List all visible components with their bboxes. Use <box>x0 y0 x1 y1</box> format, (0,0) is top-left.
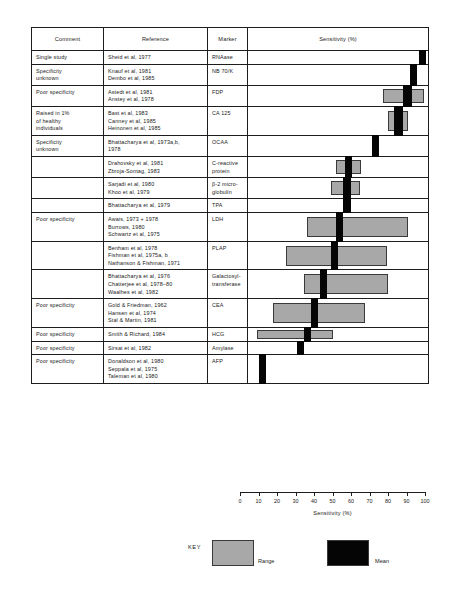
cell-sensitivity-plot <box>248 135 429 156</box>
cell-reference-line: Bast et al, 1983 <box>108 110 203 118</box>
cell-sensitivity-plot <box>248 156 429 177</box>
cell-reference: Bhattacharya et al, 1973a,b,1978 <box>104 135 208 156</box>
cell-reference-line: Sheid et al, 1977 <box>108 54 203 62</box>
cell-reference: Bast et al, 1983Canney et al, 1985Heinon… <box>104 106 208 135</box>
cell-comment: Poor specificity <box>32 328 104 342</box>
bar-container <box>248 157 428 177</box>
cell-marker-line: transferase <box>212 281 243 289</box>
range-bar <box>304 274 389 294</box>
cell-marker-line: FDP <box>212 89 243 97</box>
mean-bar <box>345 156 352 178</box>
table-row: Poor specificityGold & Friedman, 1962Han… <box>32 299 429 328</box>
cell-marker-line: CA 125 <box>212 110 243 118</box>
cell-comment: Poor specificity <box>32 355 104 384</box>
cell-sensitivity-plot <box>248 241 429 270</box>
cell-comment-line: Poor specificity <box>36 216 99 224</box>
key-label: KEY <box>188 544 201 550</box>
cell-marker-line: TPA <box>212 202 243 210</box>
table-row: Poor specificityAstedt et al, 1981Anstey… <box>32 85 429 106</box>
cell-marker-line: OCAA <box>212 139 243 147</box>
cell-marker: Galactosyl-transferase <box>208 270 248 299</box>
cell-reference-line: Bhattacharya et al, 1979 <box>108 202 203 210</box>
cell-comment-line: Single study <box>36 54 99 62</box>
cell-marker: TPA <box>208 199 248 213</box>
marker-sensitivity-table: Comment Reference Marker Sensitivity (%)… <box>31 27 429 384</box>
cell-comment-line: Poor specificity <box>36 331 99 339</box>
axis-tick-label: 20 <box>267 498 287 504</box>
table-row: Poor specificityAwais, 1973 + 1978Burrow… <box>32 212 429 241</box>
mean-bar <box>297 341 304 356</box>
cell-reference-line: Waalhes et al, 1982 <box>108 289 203 297</box>
axis-tick-label: 80 <box>378 498 398 504</box>
bar-container <box>248 342 428 355</box>
cell-sensitivity-plot <box>248 328 429 342</box>
cell-comment-line: Specificity <box>36 139 99 147</box>
cell-marker-line: LDH <box>212 216 243 224</box>
cell-marker-line: AFP <box>212 358 243 366</box>
cell-comment-line: Poor specificity <box>36 89 99 97</box>
mean-bar <box>343 177 350 199</box>
axis-tick <box>351 492 352 496</box>
cell-marker: β-2 micro-globulin <box>208 178 248 199</box>
bar-container <box>248 328 428 341</box>
cell-marker-line: PLAP <box>212 245 243 253</box>
axis-tick <box>259 492 260 496</box>
cell-marker-line: β-2 micro- <box>212 181 243 189</box>
cell-reference-line: Chatterjee et al, 1978–80 <box>108 281 203 289</box>
table-row: SpecificityunknownKnauf et al, 1981Dembo… <box>32 64 429 85</box>
bar-container <box>248 213 428 241</box>
mean-bar <box>419 50 426 65</box>
axis-tick-label: 90 <box>397 498 417 504</box>
table-row: Single studySheid et al, 1977RNAase <box>32 51 429 65</box>
cell-reference-line: Hansen et al, 1974 <box>108 310 203 318</box>
cell-marker: Amylase <box>208 341 248 355</box>
axis-tick-label: 70 <box>360 498 380 504</box>
column-header-reference: Reference <box>104 28 208 51</box>
cell-reference-line: Sirsat et al, 1982 <box>108 345 203 353</box>
cell-reference-line: Dembo et al, 1985 <box>108 75 203 83</box>
cell-reference: Sirsat et al, 1982 <box>104 341 208 355</box>
legend-swatch-mean <box>327 540 369 566</box>
cell-marker: LDH <box>208 212 248 241</box>
cell-comment <box>32 241 104 270</box>
cell-reference: Drahovsky et al, 1981Zbroja-Sontag, 1983 <box>104 156 208 177</box>
cell-comment-line: Specificity <box>36 68 99 76</box>
cell-reference: Sarjadi et al, 1980Khoo et al, 1979 <box>104 178 208 199</box>
cell-marker: FDP <box>208 85 248 106</box>
axis-tick-label: 60 <box>341 498 361 504</box>
bar-container <box>248 86 428 106</box>
table-row: Drahovsky et al, 1981Zbroja-Sontag, 1983… <box>32 156 429 177</box>
mean-bar <box>311 298 318 328</box>
cell-comment-line: Poor specificity <box>36 345 99 353</box>
cell-marker: NB 70/K <box>208 64 248 85</box>
bar-container <box>248 242 428 270</box>
cell-marker-line: HCG <box>212 331 243 339</box>
cell-reference-line: Astedt et al, 1981 <box>108 89 203 97</box>
column-header-sensitivity: Sensitivity (%) <box>248 28 429 51</box>
cell-marker: OCAA <box>208 135 248 156</box>
cell-comment <box>32 270 104 299</box>
table-row: Poor specificitySmith & Richard, 1984HCG <box>32 328 429 342</box>
table-row: Bhattacharya et al, 1976Chatterjee et al… <box>32 270 429 299</box>
cell-reference-line: Khoo et al, 1979 <box>108 189 203 197</box>
cell-comment: Raised in 1%of healthyindividuals <box>32 106 104 135</box>
cell-reference-line: Stal & Martin, 1981 <box>108 317 203 325</box>
cell-reference-line: Bhattacharya et al, 1976 <box>108 273 203 281</box>
cell-reference: Donaldson et al, 1980Seppala et al, 1975… <box>104 355 208 384</box>
cell-reference-line: 1978 <box>108 146 203 154</box>
cell-comment-line: Poor specificity <box>36 358 99 366</box>
bar-container <box>248 178 428 198</box>
cell-sensitivity-plot <box>248 199 429 213</box>
bar-container <box>248 107 428 135</box>
bar-container <box>248 355 428 383</box>
cell-marker-line: NB 70/K <box>212 68 243 76</box>
cell-marker: C-reactiveprotein <box>208 156 248 177</box>
figure-root: Comment Reference Marker Sensitivity (%)… <box>0 0 459 603</box>
cell-reference: Gold & Friedman, 1962Hansen et al, 1974S… <box>104 299 208 328</box>
cell-reference: Sheid et al, 1977 <box>104 51 208 65</box>
cell-marker-line: C-reactive <box>212 160 243 168</box>
mean-bar <box>394 106 403 136</box>
cell-reference-line: Gold & Friedman, 1962 <box>108 302 203 310</box>
table-row: Poor specificityDonaldson et al, 1980Sep… <box>32 355 429 384</box>
axis-tick-label: 10 <box>249 498 269 504</box>
